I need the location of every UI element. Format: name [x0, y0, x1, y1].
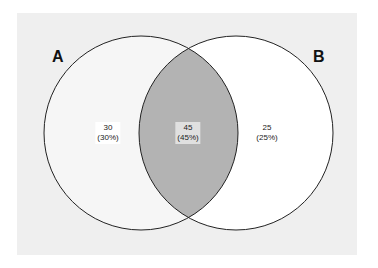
region-ab-percent: (45%) [177, 133, 198, 143]
region-b-percent: (25%) [256, 133, 277, 143]
region-a-value: 30 [97, 123, 118, 133]
set-a-label: A [52, 48, 64, 66]
region-a-percent: (30%) [97, 133, 118, 143]
set-b-label: B [313, 48, 325, 66]
region-ab-value: 45 [177, 123, 198, 133]
region-b-value: 25 [256, 123, 277, 133]
region-a-only-label: 30 (30%) [95, 122, 120, 144]
region-b-only-label: 25 (25%) [254, 122, 279, 144]
region-intersection-label: 45 (45%) [175, 122, 200, 144]
